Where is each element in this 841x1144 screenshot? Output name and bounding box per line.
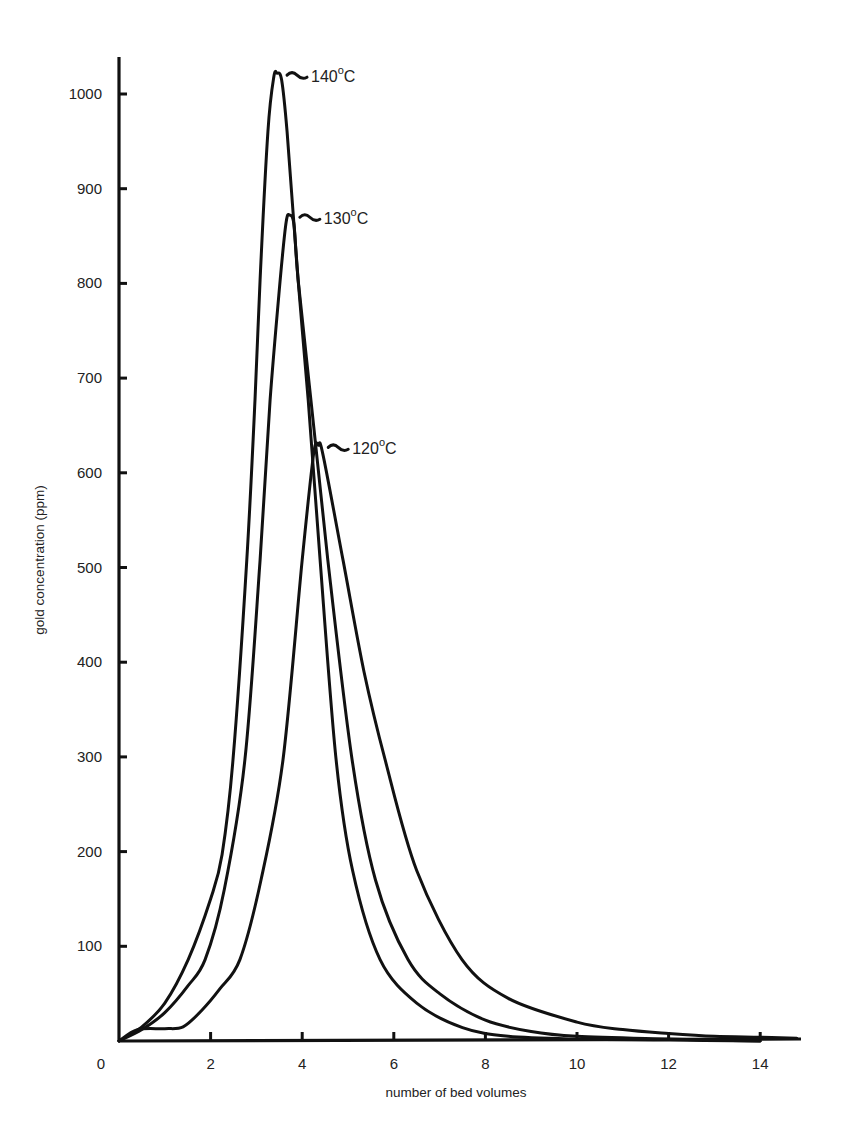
x-tick-label: 12	[660, 1055, 677, 1072]
y-tick-label: 400	[77, 653, 102, 670]
x-tick-label: 2	[206, 1055, 214, 1072]
x-tick-label: 0	[97, 1055, 105, 1072]
curve-130c	[119, 214, 760, 1041]
series-labels: 140oC130oC120oC	[287, 64, 397, 457]
series-label-140c: 140oC	[311, 64, 355, 85]
label-leader-140c	[287, 73, 307, 79]
chart: 1002003004005006007008009001000024681012…	[0, 0, 841, 1144]
x-tick-label: 10	[569, 1055, 586, 1072]
y-tick-label: 500	[77, 559, 102, 576]
x-axis-title: number of bed volumes	[385, 1085, 526, 1100]
x-tick-label: 8	[481, 1055, 489, 1072]
y-tick-label: 900	[77, 180, 102, 197]
x-tick-label: 6	[390, 1055, 398, 1072]
label-leader-130c	[300, 215, 320, 221]
curves	[119, 71, 797, 1041]
y-tick-label: 700	[77, 369, 102, 386]
y-tick-label: 1000	[69, 85, 102, 102]
y-axis-title: gold concentration (ppm)	[32, 485, 47, 634]
series-label-130c: 130oC	[324, 206, 368, 227]
x-tick-label: 4	[298, 1055, 306, 1072]
axes: 1002003004005006007008009001000024681012…	[69, 57, 801, 1072]
curve-140c	[119, 71, 760, 1041]
y-tick-label: 300	[77, 748, 102, 765]
label-leader-120c	[328, 445, 348, 451]
x-tick-label: 14	[752, 1055, 769, 1072]
curve-120c	[119, 443, 797, 1041]
y-tick-label: 100	[77, 937, 102, 954]
y-tick-label: 200	[77, 843, 102, 860]
y-tick-label: 800	[77, 274, 102, 291]
y-tick-label: 600	[77, 464, 102, 481]
series-label-120c: 120oC	[352, 436, 396, 457]
